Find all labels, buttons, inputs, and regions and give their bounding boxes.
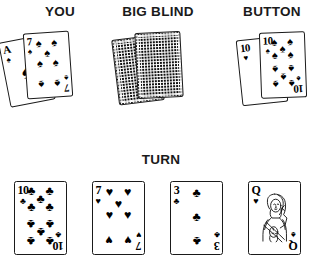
card-pips: ♣ ♣ ♣ ♣ ♣ ♣ ♣ ♣ ♣ ♣ [23,187,58,249]
spade-icon: ♠ [54,78,61,89]
card-index-bottom-right: 7 ♥ [136,231,141,252]
board-card-1[interactable]: 10 ♣ 10 ♣ ♣ ♣ ♣ ♣ ♣ ♣ ♣ ♣ ♣ ♣ [14,181,67,255]
spade-icon: ♠ [64,75,69,82]
spade-icon: ♠ [51,37,58,48]
board-card-4[interactable]: Q ♥ Q ♠ [248,181,301,255]
spade-icon: ♠ [44,47,51,58]
card-rank: 3 [214,240,219,252]
club-icon: ♣ [27,201,35,214]
spade-icon: ♠ [287,49,293,60]
heart-icon: ♥ [106,209,113,222]
card-index-bottom-right: 3 ♣ [214,231,220,252]
spade-icon: ♠ [273,79,279,90]
club-icon: ♣ [192,186,200,199]
label-big-blind: BIG BLIND [122,4,194,19]
card-rank: 7 [26,36,32,47]
heart-icon: ♥ [115,197,122,210]
card-pips: ♣ ♣ ♣ [179,187,214,249]
spade-icon: ♠ [272,64,278,75]
card-rank: 7 [64,83,70,94]
club-icon: ♣ [36,193,44,206]
club-icon: ♣ [45,185,53,198]
card-you-2[interactable]: 7 ♠ 7 ♠ ♠ ♠ ♠ ♠ ♠ ♠ ♠ [23,30,73,99]
card-index-bottom-right: 7 ♠ [63,75,69,94]
spade-icon: ♠ [288,63,294,74]
card-pips: ♥ ♥ ♥ ♥ ♥ ♥ ♥ [101,187,136,249]
heart-icon: ♥ [106,186,113,199]
spade-icon: ♠ [280,71,286,82]
label-turn: TURN [142,152,181,167]
club-icon: ♣ [36,226,44,239]
spade-icon: ♠ [28,48,33,55]
queen-portrait-illustration [258,186,291,250]
heart-icon: ♥ [124,209,131,222]
board-card-2[interactable]: 7 ♥ 7 ♥ ♥ ♥ ♥ ♥ ♥ ♥ ♥ [92,181,145,255]
card-big-blind-2-facedown[interactable] [134,31,183,99]
board-cards: 10 ♣ 10 ♣ ♣ ♣ ♣ ♣ ♣ ♣ ♣ ♣ ♣ ♣ [0,180,321,262]
card-pips: ♠ ♠ ♠ ♠ ♠ ♠ ♠ [32,37,64,93]
heart-icon: ♥ [124,234,131,247]
label-you: YOU [45,4,75,19]
card-rank: 7 [136,240,141,252]
card-button-2[interactable]: 10 ♠ 10 ♠ ♠ ♠ ♠ ♠ ♠ ♠ ♠ ♠ ♠ ♠ [259,31,307,99]
spade-icon: ♠ [288,79,294,90]
club-icon: ♣ [27,235,35,248]
spade-icon: ♠ [272,50,278,61]
spade-icon: ♠ [37,58,44,69]
club-icon: ♣ [45,218,53,231]
hand-button: 10 ♥ ♥ ♥ 10 ♠ 10 ♠ ♠ ♠ ♠ ♠ ♠ [235,26,321,126]
heart-icon: ♥ [124,186,131,199]
card-pips: ♠ ♠ ♠ ♠ ♠ ♠ ♠ ♠ ♠ ♠ [268,38,298,93]
spade-icon: ♠ [287,36,293,47]
board-card-3[interactable]: 3 ♣ 3 ♣ ♣ ♣ ♣ [170,181,223,255]
heart-icon: ♥ [136,231,141,239]
poker-hand-illustration: YOU BIG BLIND BUTTON A ♠ ♠ 7 ♠ 7 ♠ [0,0,321,266]
spade-icon: ♠ [291,231,296,239]
spade-icon: ♠ [271,36,277,47]
club-icon: ♣ [27,218,35,231]
spade-icon: ♠ [38,79,45,90]
spade-icon: ♠ [52,57,59,68]
club-icon: ♣ [45,201,53,214]
heart-icon: ♥ [106,234,113,247]
spade-icon: ♠ [35,38,42,49]
club-icon: ♣ [45,235,53,248]
club-icon: ♣ [192,211,200,224]
card-back-border [137,33,181,96]
label-button: BUTTON [243,4,301,19]
club-icon: ♣ [192,235,200,248]
club-icon: ♣ [214,231,220,239]
hand-big-blind [110,26,200,126]
hand-you: A ♠ ♠ 7 ♠ 7 ♠ ♠ ♠ ♠ ♠ ♠ ♠ [0,26,90,126]
spade-icon: ♠ [279,43,285,54]
club-icon: ♣ [27,185,35,198]
